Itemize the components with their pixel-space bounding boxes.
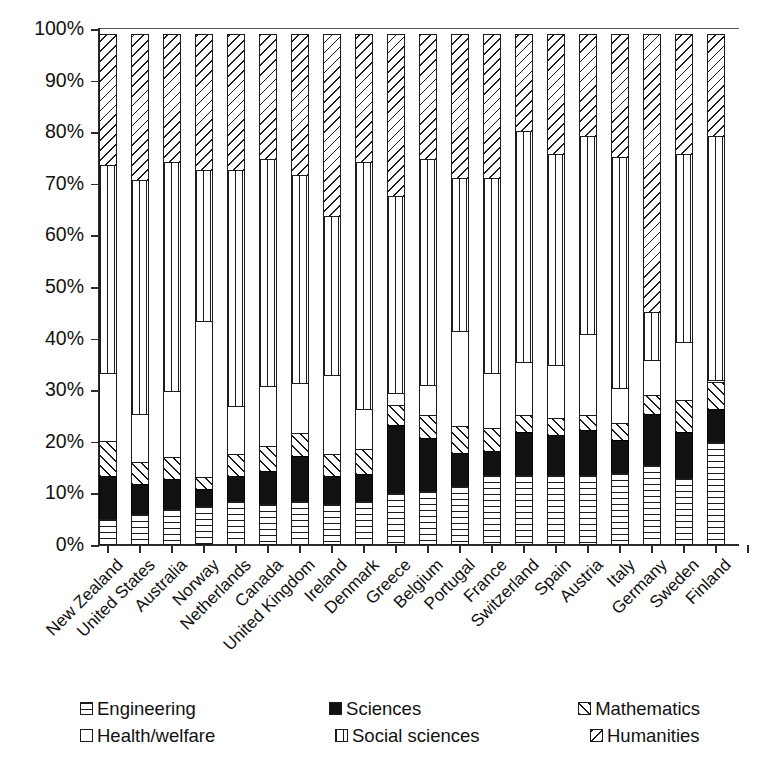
legend-label: Humanities bbox=[607, 725, 700, 747]
legend-swatch-solid-black-icon bbox=[329, 702, 342, 715]
legend-label: Social sciences bbox=[352, 725, 480, 747]
legend-item-humanities[interactable]: Humanities bbox=[590, 725, 700, 747]
legend-swatch-vertical-lines-icon bbox=[335, 729, 348, 742]
legend-item-social-sciences[interactable]: Social sciences bbox=[335, 725, 590, 747]
legend-row: EngineeringSciencesMathematics bbox=[80, 695, 700, 722]
legend-swatch-backward-diagonal-icon bbox=[578, 702, 591, 715]
legend-item-health-welfare[interactable]: Health/welfare bbox=[80, 725, 335, 747]
chart-legend: EngineeringSciencesMathematicsHealth/wel… bbox=[80, 695, 700, 749]
x-axis-category-labels: New ZealandUnited StatesAustraliaNorwayN… bbox=[0, 0, 772, 770]
legend-row: Health/welfareSocial sciencesHumanities bbox=[80, 722, 700, 749]
legend-label: Engineering bbox=[97, 698, 196, 720]
legend-item-engineering[interactable]: Engineering bbox=[80, 698, 329, 720]
legend-item-sciences[interactable]: Sciences bbox=[329, 698, 578, 720]
legend-label: Health/welfare bbox=[97, 725, 215, 747]
stacked-bar-chart: 100%90%80%70%60%50%40%30%20%10%0% New Ze… bbox=[0, 0, 772, 770]
legend-label: Mathematics bbox=[595, 698, 700, 720]
legend-swatch-horizontal-lines-icon bbox=[80, 702, 93, 715]
legend-swatch-forward-diagonal-icon bbox=[590, 729, 603, 742]
legend-swatch-white-icon bbox=[80, 729, 93, 742]
legend-label: Sciences bbox=[346, 698, 421, 720]
legend-item-mathematics[interactable]: Mathematics bbox=[578, 698, 700, 720]
